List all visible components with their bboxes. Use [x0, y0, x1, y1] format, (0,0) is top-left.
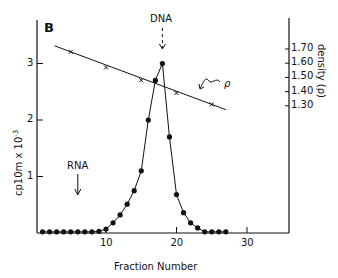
cpm-point	[174, 192, 179, 197]
x-axis-label: Fraction Number	[114, 261, 197, 272]
y2-tick-label: 1.50	[291, 70, 313, 81]
x-tick-label: 10	[100, 237, 113, 248]
y2-tick-label: 1.40	[291, 85, 313, 96]
cpm-point	[153, 78, 158, 83]
cpm-point	[68, 229, 73, 234]
rho-curly-arrow	[200, 79, 220, 88]
y2-axis-label: density (ρ)	[316, 44, 327, 98]
cpm-point	[61, 229, 66, 234]
chart-canvas	[0, 0, 338, 278]
cpm-point	[223, 229, 228, 234]
cpm-point	[40, 229, 45, 234]
rna-label: RNA	[67, 160, 88, 171]
y2-tick-label: 1.30	[291, 99, 313, 110]
cpm-point	[54, 229, 59, 234]
cpm-point	[139, 168, 144, 173]
density-point	[104, 65, 108, 69]
y-axis-label: cp10m x 10-3	[12, 130, 24, 196]
cpm-point	[118, 212, 123, 217]
cpm-point	[47, 229, 52, 234]
cpm-point	[132, 188, 137, 193]
x-tick-label: 30	[241, 237, 254, 248]
cpm-point	[82, 229, 87, 234]
rho-label: ρ	[224, 78, 230, 89]
y-tick-label: 3	[27, 57, 33, 68]
x-tick-label: 20	[171, 237, 184, 248]
cpm-point	[167, 134, 172, 139]
cpm-point	[89, 229, 94, 234]
cpm-point	[160, 61, 165, 66]
y-axis-label-exponent: -3	[12, 130, 20, 137]
y-tick-label: 1	[27, 170, 33, 181]
y-tick-label: 2	[27, 113, 33, 124]
cpm-point	[103, 226, 108, 231]
panel-label: B	[44, 20, 54, 35]
cpm-point	[96, 229, 101, 234]
cpm-point	[181, 210, 186, 215]
cpm-point	[195, 225, 200, 230]
cpm-point	[125, 202, 130, 207]
cpm-point	[110, 220, 115, 225]
y2-tick-label: 1.70	[291, 42, 313, 53]
cpm-point	[75, 229, 80, 234]
density-point	[139, 78, 143, 82]
cpm-point	[188, 220, 193, 225]
y-axis-label-text: cp10m x 10	[13, 137, 24, 196]
dna-label: DNA	[150, 13, 172, 24]
cpm-point	[216, 229, 221, 234]
density-series	[55, 46, 226, 110]
cpm-point	[209, 229, 214, 234]
y2-tick-label: 1.60	[291, 56, 313, 67]
cpm-point	[202, 229, 207, 234]
cpm-point	[146, 117, 151, 122]
